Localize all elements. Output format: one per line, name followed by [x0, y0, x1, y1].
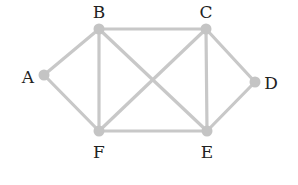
node-label-a: A: [21, 67, 35, 87]
node-e: [202, 126, 213, 137]
node-label-e: E: [201, 142, 213, 162]
edge-c-d: [206, 29, 255, 82]
node-label-f: F: [93, 142, 105, 162]
edge-d-e: [207, 82, 255, 131]
graph-diagram: ABCDEF: [0, 0, 298, 185]
edges-group: [44, 29, 255, 131]
edge-a-b: [44, 29, 99, 75]
node-label-c: C: [199, 2, 212, 22]
node-d: [250, 77, 261, 88]
node-b: [94, 24, 105, 35]
edge-a-f: [44, 75, 99, 131]
node-label-b: B: [93, 2, 106, 22]
node-f: [94, 126, 105, 137]
node-c: [201, 24, 212, 35]
edge-c-e: [206, 29, 207, 131]
node-label-d: D: [264, 73, 278, 93]
node-a: [39, 70, 50, 81]
nodes-group: [39, 24, 261, 137]
